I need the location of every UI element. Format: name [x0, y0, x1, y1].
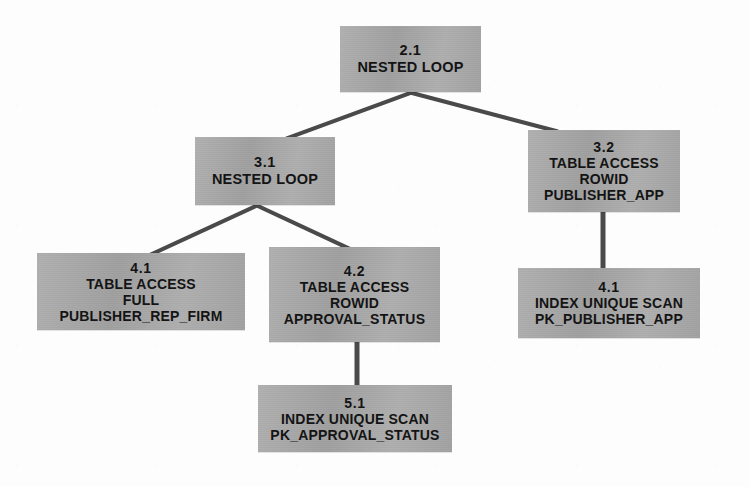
plan-node-5-1-operation: INDEX UNIQUE SCAN — [281, 411, 429, 427]
plan-node-2-1-operation: NESTED LOOP — [357, 59, 463, 76]
plan-node-4-1-pk-publisher-app-id: 4.1 — [598, 279, 619, 295]
plan-node-2-1-id: 2.1 — [400, 42, 422, 59]
execution-plan-diagram: 2.1 NESTED LOOP 3.1 NESTED LOOP 3.2 TABL… — [0, 0, 749, 487]
plan-node-2-1[interactable]: 2.1 NESTED LOOP — [340, 26, 481, 92]
plan-node-4-2-id: 4.2 — [344, 263, 365, 279]
plan-node-4-1-publisher-rep-firm-object: PUBLISHER_REP_FIRM — [59, 308, 222, 324]
plan-node-3-1[interactable]: 3.1 NESTED LOOP — [195, 137, 335, 205]
plan-node-4-1-publisher-rep-firm-operation: TABLE ACCESS — [86, 276, 196, 292]
plan-node-4-1-pk-publisher-app-object: PK_PUBLISHER_APP — [535, 311, 683, 327]
plan-node-4-1-pk-publisher-app-operation: INDEX UNIQUE SCAN — [535, 295, 683, 311]
plan-node-3-2-id: 3.2 — [593, 139, 614, 155]
plan-node-3-2[interactable]: 3.2 TABLE ACCESS ROWID PUBLISHER_APP — [528, 130, 680, 212]
plan-node-3-2-object: PUBLISHER_APP — [544, 187, 664, 203]
plan-node-5-1-object: PK_APPROVAL_STATUS — [270, 427, 439, 443]
plan-node-4-2-object: APPROVAL_STATUS — [284, 311, 425, 327]
plan-node-4-2[interactable]: 4.2 TABLE ACCESS ROWID APPROVAL_STATUS — [269, 247, 440, 342]
plan-node-3-1-id: 3.1 — [254, 154, 276, 171]
plan-node-3-1-operation: NESTED LOOP — [212, 171, 318, 188]
edge-3-1-to-4-2 — [258, 206, 348, 248]
plan-node-4-1-pk-publisher-app[interactable]: 4.1 INDEX UNIQUE SCAN PK_PUBLISHER_APP — [518, 268, 700, 338]
edge-root-to-3-2 — [412, 93, 556, 131]
plan-node-4-2-operation: TABLE ACCESS — [300, 279, 410, 295]
plan-node-4-1-publisher-rep-firm-id: 4.1 — [130, 260, 151, 276]
edge-3-1-to-4-1 — [152, 206, 256, 254]
plan-node-4-1-publisher-rep-firm[interactable]: 4.1 TABLE ACCESS FULL PUBLISHER_REP_FIRM — [37, 253, 245, 330]
plan-node-4-1-publisher-rep-firm-access-method: FULL — [123, 292, 160, 308]
plan-node-5-1-id: 5.1 — [344, 395, 365, 411]
plan-node-3-2-access-method: ROWID — [579, 171, 628, 187]
plan-node-4-2-access-method: ROWID — [330, 295, 379, 311]
plan-node-3-2-operation: TABLE ACCESS — [549, 155, 659, 171]
plan-node-5-1[interactable]: 5.1 INDEX UNIQUE SCAN PK_APPROVAL_STATUS — [258, 385, 452, 452]
edge-root-to-3-1 — [288, 93, 410, 138]
